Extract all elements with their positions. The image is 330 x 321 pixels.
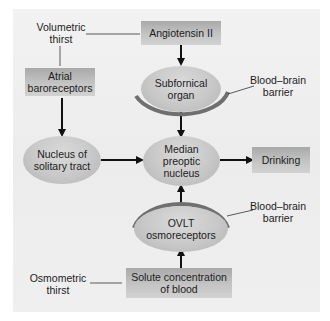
solute-concentration-box: Solute concentration of blood — [126, 268, 232, 298]
median-preoptic-oval: Median preoptic nucleus — [143, 136, 220, 186]
subfornical-organ-oval: Subfornical organ — [141, 66, 221, 112]
ovlt-osmoreceptors-oval: OVLT osmoreceptors — [134, 206, 228, 252]
atrial-baroreceptors-box: Atrial baroreceptors — [25, 68, 95, 96]
solitary-tract-oval: Nucleus of solitary tract — [23, 136, 101, 184]
osmometric-thirst-label: Osmometric thirst — [25, 272, 91, 296]
angiotensin-box: Angiotensin II — [141, 21, 221, 45]
drinking-box: Drinking — [252, 147, 310, 173]
bbb-bottom-label: Blood–brain barrier — [245, 200, 311, 224]
bbb-top-label: Blood–brain barrier — [245, 74, 311, 98]
volumetric-thirst-label: Volumetric thirst — [28, 21, 94, 45]
